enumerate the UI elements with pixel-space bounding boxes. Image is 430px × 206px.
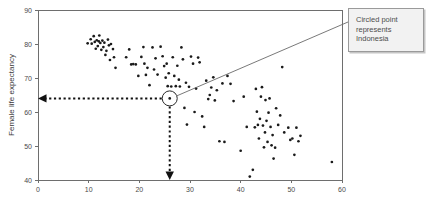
x-tick-label: 10: [85, 186, 93, 193]
callout-box: Circled point represents Indonesia: [348, 8, 424, 52]
y-tick-label: 70: [24, 75, 32, 82]
data-point: [239, 149, 242, 152]
data-point: [109, 59, 112, 62]
data-point: [258, 137, 261, 140]
data-point: [293, 153, 296, 156]
data-point: [142, 46, 145, 49]
data-point: [264, 99, 267, 102]
data-point: [299, 134, 302, 137]
data-point: [100, 48, 103, 51]
data-point: [245, 126, 248, 129]
data-point: [159, 45, 162, 48]
data-point: [197, 56, 200, 59]
callout-text: Circled point represents Indonesia: [349, 9, 423, 48]
axes-group: 0102030405060405060708090Female life exp…: [7, 7, 346, 193]
data-point: [262, 124, 265, 127]
data-point: [180, 46, 183, 49]
horizontal-guide-arrowhead: [38, 94, 47, 102]
data-point: [226, 75, 229, 78]
data-point: [153, 68, 156, 71]
data-point: [283, 131, 286, 134]
data-point: [128, 48, 131, 51]
data-point: [167, 72, 170, 75]
x-tick-label: 20: [135, 186, 143, 193]
data-point: [208, 94, 211, 97]
data-points-group: [86, 34, 333, 178]
data-point: [268, 97, 271, 100]
y-tick-label: 50: [24, 143, 32, 150]
data-point: [161, 55, 164, 58]
data-point: [94, 47, 97, 50]
data-point: [270, 144, 273, 147]
vertical-guide-arrowhead: [166, 172, 174, 181]
data-point: [105, 49, 108, 52]
data-point: [183, 107, 186, 110]
x-tick-label: 40: [237, 186, 245, 193]
x-tick-label: 30: [186, 186, 194, 193]
data-point: [291, 137, 294, 140]
data-point: [104, 54, 107, 57]
data-point: [154, 57, 157, 60]
data-point: [271, 134, 274, 137]
data-point: [275, 107, 278, 110]
data-point: [297, 140, 300, 143]
data-point: [266, 141, 269, 144]
data-point: [260, 95, 263, 98]
data-point: [263, 146, 266, 149]
data-point: [173, 75, 176, 78]
data-point: [267, 111, 270, 114]
data-point: [223, 141, 226, 144]
data-point: [259, 117, 262, 120]
data-point: [193, 111, 196, 114]
data-point: [182, 58, 185, 61]
scatter-plot-screenshot: 0102030405060405060708090Female life exp…: [0, 0, 430, 206]
data-point: [274, 146, 277, 149]
data-point: [156, 73, 159, 76]
data-point: [151, 46, 154, 49]
data-point: [101, 39, 104, 42]
data-point: [207, 98, 210, 101]
data-point: [265, 119, 268, 122]
data-point: [213, 99, 216, 102]
data-point: [163, 65, 166, 68]
data-point: [145, 74, 148, 77]
data-point: [218, 140, 221, 143]
data-point: [192, 62, 195, 65]
y-tick-label: 80: [24, 41, 32, 48]
data-point: [203, 126, 206, 129]
data-point: [212, 76, 215, 79]
data-point: [186, 123, 189, 126]
data-point: [205, 79, 208, 82]
data-point: [110, 43, 113, 46]
y-axis-title: Female life expectancy: [7, 54, 16, 136]
data-point: [92, 35, 95, 38]
data-point: [113, 56, 116, 59]
data-point: [255, 88, 258, 91]
y-tick-label: 90: [24, 7, 32, 14]
axis-lines: [38, 10, 342, 180]
data-point: [89, 38, 92, 41]
data-point: [251, 168, 254, 171]
data-point: [125, 56, 128, 59]
data-point: [256, 110, 259, 113]
data-point: [229, 82, 232, 85]
data-point: [248, 175, 251, 178]
data-point: [190, 55, 193, 58]
data-point: [242, 95, 245, 98]
data-point: [261, 86, 264, 89]
data-point: [171, 56, 174, 59]
data-point: [166, 85, 169, 88]
data-point: [272, 157, 275, 160]
data-point: [216, 89, 219, 92]
data-point: [295, 126, 298, 129]
data-point: [164, 76, 167, 79]
data-point: [148, 84, 151, 87]
data-point: [201, 115, 204, 118]
data-point: [188, 85, 191, 88]
data-point: [269, 126, 272, 129]
data-point: [96, 45, 99, 48]
data-point: [277, 124, 280, 127]
data-point: [86, 42, 89, 45]
data-point: [170, 85, 173, 88]
data-point: [134, 63, 137, 66]
